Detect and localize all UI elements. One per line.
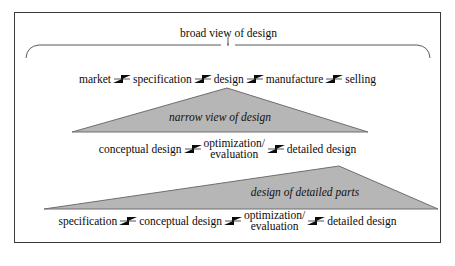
bidirectional-arrow-icon — [222, 214, 244, 228]
node-conceptual-design: conceptual design — [99, 143, 182, 155]
bracket-center-tick — [227, 37, 229, 46]
bidirectional-arrow-icon — [117, 214, 139, 228]
node-specification: specification — [58, 215, 117, 227]
bidirectional-arrow-icon — [111, 72, 133, 86]
detailed-parts-row: specification conceptual design optimiza… — [15, 211, 440, 231]
node-design: design — [214, 73, 244, 85]
bidirectional-arrow-icon — [182, 142, 204, 156]
node-market: market — [79, 73, 111, 85]
narrow-view-triangle-label: narrow view of design — [71, 111, 369, 123]
node-specification: specification — [133, 73, 192, 85]
node-optimization-line1: optimization/ — [204, 137, 265, 149]
node-optimization-line2: evaluation — [204, 149, 265, 161]
node-detailed-design: detailed design — [287, 143, 356, 155]
detailed-parts-triangle-label: design of detailed parts — [205, 186, 405, 198]
diagram-root: broad view of design market — [0, 0, 455, 266]
bidirectional-arrow-icon — [305, 214, 327, 228]
narrow-view-row: conceptual design optimization/ evaluati… — [15, 139, 440, 159]
node-optimization-evaluation: optimization/ evaluation — [244, 210, 305, 233]
node-optimization-evaluation: optimization/ evaluation — [204, 138, 265, 161]
bidirectional-arrow-icon — [265, 142, 287, 156]
broad-view-row: market specification design — [15, 71, 440, 87]
node-optimization-line2: evaluation — [244, 221, 305, 233]
node-conceptual-design: conceptual design — [139, 215, 222, 227]
node-detailed-design: detailed design — [327, 215, 396, 227]
bidirectional-arrow-icon — [323, 72, 345, 86]
node-optimization-line1: optimization/ — [244, 209, 305, 221]
bidirectional-arrow-icon — [244, 72, 266, 86]
node-selling: selling — [345, 73, 376, 85]
node-manufacture: manufacture — [266, 73, 323, 85]
diagram-frame: broad view of design market — [14, 12, 441, 243]
bidirectional-arrow-icon — [192, 72, 214, 86]
